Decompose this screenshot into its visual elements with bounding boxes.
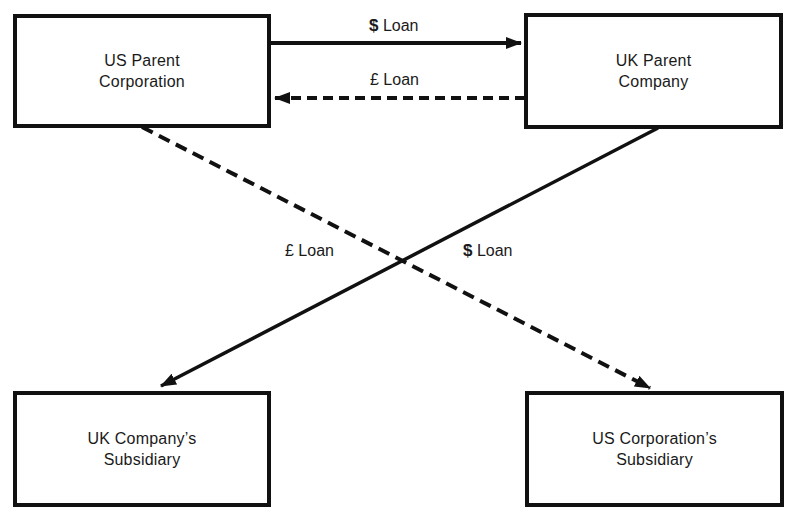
node-uk-company-subsidiary: UK Company’s Subsidiary — [13, 391, 271, 507]
node-label: US Parent Corporation — [99, 50, 185, 92]
loan-diagram: US Parent Corporation UK Parent Company … — [0, 0, 794, 513]
edge-label-text: Loan — [298, 242, 334, 259]
node-uk-parent-company: UK Parent Company — [524, 13, 783, 129]
edge-label-pound-loan-top: £ Loan — [370, 71, 419, 89]
edge-label-text: Loan — [383, 17, 419, 34]
node-us-corporation-subsidiary: US Corporation’s Subsidiary — [525, 391, 784, 507]
edge-label-pound-loan-cross: £ Loan — [285, 242, 334, 260]
pound-icon: £ — [285, 242, 294, 259]
edge-label-dollar-loan-cross: $ Loan — [463, 242, 513, 260]
node-label: UK Parent Company — [616, 50, 692, 92]
dollar-icon: $ — [463, 241, 472, 260]
node-label: US Corporation’s Subsidiary — [592, 428, 717, 470]
dollar-icon: $ — [369, 16, 378, 35]
pound-icon: £ — [370, 71, 379, 88]
arrow-dollar-loan-cross — [161, 128, 658, 386]
edge-label-dollar-loan-top: $ Loan — [369, 17, 419, 35]
edge-label-text: Loan — [477, 242, 513, 259]
edge-label-text: Loan — [383, 71, 419, 88]
node-us-parent-corporation: US Parent Corporation — [13, 14, 271, 128]
arrow-pound-loan-cross — [142, 127, 650, 388]
node-label: UK Company’s Subsidiary — [88, 428, 197, 470]
